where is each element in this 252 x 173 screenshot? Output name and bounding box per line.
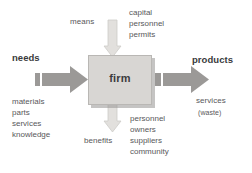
benefits-item: community — [130, 146, 169, 157]
benefits-item: suppliers — [130, 135, 169, 146]
means-items-list: capital personnel permits — [129, 7, 164, 40]
needs-arrow-tail-segment — [35, 73, 40, 86]
means-down-arrow-icon — [104, 20, 121, 57]
means-heading: means — [70, 17, 94, 28]
benefits-item: personnel — [130, 113, 169, 124]
benefits-heading: benefits — [84, 136, 112, 147]
products-item-services: services — [196, 96, 226, 107]
benefits-down-arrow-icon — [104, 104, 121, 132]
benefits-items-list: personnel owners suppliers community — [130, 113, 169, 157]
diagram-canvas: firm means capital personnel permits nee… — [0, 0, 252, 173]
products-heading: products — [192, 55, 233, 66]
products-item-waste: (waste) — [198, 108, 221, 119]
needs-right-arrow-icon — [42, 66, 88, 93]
means-item: capital — [129, 7, 164, 18]
needs-item: knowledge — [12, 129, 50, 140]
means-item: personnel — [129, 18, 164, 29]
firm-box-label: firm — [88, 72, 152, 84]
needs-item: parts — [12, 107, 50, 118]
needs-items-list: materials parts services knowledge — [12, 96, 50, 140]
products-right-arrow-icon — [163, 66, 209, 93]
benefits-item: owners — [130, 124, 169, 135]
means-item: permits — [129, 29, 164, 40]
needs-item: services — [12, 118, 50, 129]
needs-item: materials — [12, 96, 50, 107]
products-arrow-tail-segment — [155, 73, 161, 86]
needs-heading: needs — [12, 53, 40, 64]
